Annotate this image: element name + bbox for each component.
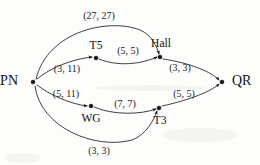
paper-smudges <box>4 85 238 163</box>
graph-node-label: T3 <box>154 114 167 126</box>
graph-node-dot <box>157 106 161 110</box>
edge-capacity-label: (5, 5) <box>117 45 139 57</box>
graph-node-label: PN <box>0 73 18 88</box>
graph-figure: (27, 27)(3, 11)(5, 5)(3, 3)(5, 11)(7, 7)… <box>0 0 260 165</box>
graph-canvas: (27, 27)(3, 11)(5, 5)(3, 3)(5, 11)(7, 7)… <box>0 0 260 165</box>
graph-node-dot <box>158 55 162 59</box>
graph-node-dot <box>89 104 93 108</box>
edge-capacity-label: (5, 5) <box>173 88 195 100</box>
graph-node-dot <box>220 80 224 84</box>
graph-node-label: T5 <box>90 39 103 51</box>
graph-node-label: QR <box>232 73 252 88</box>
edges-layer <box>35 26 219 143</box>
graph-node-dot <box>94 56 98 60</box>
edge-capacity-label: (5, 11) <box>53 88 79 100</box>
graph-node-label: Hall <box>151 37 171 49</box>
edge-capacity-label: (3, 11) <box>54 63 80 75</box>
edge-capacity-label: (3, 3) <box>169 62 191 74</box>
graph-node-dot <box>31 80 35 84</box>
edge-capacity-label: (27, 27) <box>83 10 115 22</box>
graph-edge <box>99 57 157 64</box>
edge-capacity-label: (3, 3) <box>88 145 110 157</box>
edge-capacity-label: (7, 7) <box>114 98 136 110</box>
graph-node-label: WG <box>81 112 100 124</box>
